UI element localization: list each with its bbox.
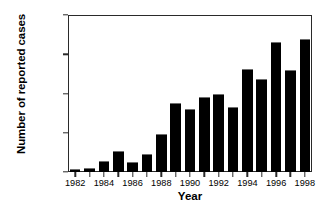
x-tick-mark [290, 172, 291, 177]
bar [127, 162, 138, 172]
x-tick-mark [74, 172, 75, 177]
x-tick-mark [247, 172, 248, 177]
x-tick-mark [146, 172, 147, 177]
bar [170, 103, 181, 172]
x-tick-mark [261, 172, 262, 177]
x-tick-mark [304, 172, 305, 177]
x-tick-mark [132, 172, 133, 177]
bar [300, 39, 311, 172]
bar [142, 154, 153, 172]
bar [256, 79, 267, 172]
x-tick-label: 1998 [285, 178, 321, 188]
x-tick-mark [175, 172, 176, 177]
bar [199, 97, 210, 172]
bar [156, 134, 167, 172]
x-tick-mark [189, 172, 190, 177]
bar-chart-figure: Number of reported cases 05,00010,00015,… [0, 0, 321, 213]
bar-series [68, 15, 312, 172]
x-tick-mark [103, 172, 104, 177]
bar [242, 69, 253, 172]
bar [185, 109, 196, 172]
x-tick-mark [89, 172, 90, 177]
x-tick-mark [232, 172, 233, 177]
x-axis-title: Year [68, 190, 312, 202]
bar [228, 107, 239, 172]
bar [271, 42, 282, 172]
x-tick-mark [218, 172, 219, 177]
x-tick-mark [118, 172, 119, 177]
x-tick-mark [275, 172, 276, 177]
bar [99, 161, 110, 172]
x-tick-mark [204, 172, 205, 177]
bar [113, 151, 124, 172]
x-tick-mark [161, 172, 162, 177]
bar [285, 70, 296, 172]
y-axis-title: Number of reported cases [15, 0, 27, 169]
bar [213, 94, 224, 172]
